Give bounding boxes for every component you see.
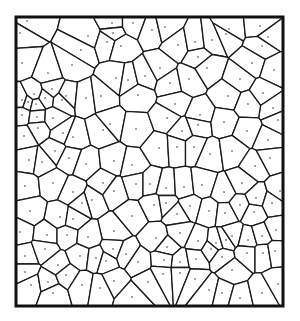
- seed-point: [147, 281, 149, 283]
- seed-point: [176, 146, 178, 148]
- seed-point: [166, 246, 168, 248]
- seed-point: [113, 190, 115, 192]
- seed-point: [262, 92, 264, 94]
- seed-point: [99, 287, 101, 289]
- voronoi-cells: [16, 17, 283, 306]
- seed-point: [195, 258, 197, 260]
- seed-point: [272, 107, 274, 109]
- seed-point: [102, 182, 104, 184]
- seed-point: [37, 127, 39, 129]
- seed-point: [221, 292, 223, 294]
- seed-point: [26, 20, 28, 22]
- seed-point: [181, 130, 183, 132]
- seed-point: [273, 69, 275, 71]
- seed-point: [113, 160, 115, 162]
- seed-point: [206, 67, 208, 69]
- seed-point: [274, 250, 276, 252]
- seed-point: [137, 94, 139, 96]
- seed-point: [52, 292, 54, 294]
- seed-point: [41, 161, 43, 163]
- seed-point: [54, 150, 56, 152]
- seed-point: [28, 159, 30, 161]
- seed-point: [262, 252, 264, 254]
- seed-point: [106, 41, 108, 43]
- seed-point: [194, 278, 196, 280]
- seed-point: [194, 41, 196, 43]
- seed-point: [164, 26, 166, 28]
- seed-point: [159, 67, 161, 69]
- seed-point: [169, 82, 171, 84]
- seed-point: [131, 164, 133, 166]
- seed-point: [155, 237, 157, 239]
- seed-point: [125, 253, 127, 255]
- seed-point: [179, 261, 181, 263]
- seed-point: [47, 281, 49, 283]
- seed-point: [59, 216, 61, 218]
- seed-point: [109, 123, 111, 125]
- seed-point: [165, 202, 167, 204]
- seed-point: [81, 202, 83, 204]
- seed-point: [189, 205, 191, 207]
- seed-point: [188, 78, 190, 80]
- seed-point: [215, 242, 217, 244]
- seed-point: [44, 248, 46, 250]
- seed-point: [247, 239, 249, 241]
- seed-point: [29, 210, 31, 212]
- seed-point: [254, 165, 256, 167]
- seed-point: [137, 261, 139, 263]
- seed-point: [199, 114, 201, 116]
- seed-point: [80, 49, 82, 51]
- seed-point: [231, 150, 233, 152]
- seed-point: [246, 130, 248, 132]
- seed-point: [23, 135, 25, 137]
- seed-point: [105, 260, 107, 262]
- seed-point: [85, 97, 87, 99]
- seed-point: [246, 252, 248, 254]
- seed-point: [135, 128, 137, 130]
- seed-point: [201, 184, 203, 186]
- seed-point: [24, 185, 26, 187]
- seed-point: [79, 255, 81, 257]
- seed-point: [57, 264, 59, 266]
- seed-point: [174, 103, 176, 105]
- seed-point: [208, 289, 210, 291]
- seed-point: [224, 212, 226, 214]
- seed-point: [21, 114, 23, 116]
- seed-point: [153, 204, 155, 206]
- seed-point: [151, 29, 153, 31]
- seed-point: [21, 99, 23, 101]
- seed-point: [261, 292, 263, 294]
- seed-point: [132, 22, 134, 24]
- seed-point: [223, 121, 225, 123]
- seed-point: [95, 257, 97, 259]
- seed-point: [87, 35, 89, 37]
- seed-point: [253, 211, 255, 213]
- seed-point: [61, 99, 63, 101]
- voronoi-diagram: [0, 0, 300, 321]
- seed-point: [267, 139, 269, 141]
- seed-point: [68, 157, 70, 159]
- seed-point: [228, 28, 230, 30]
- seed-point: [221, 256, 223, 258]
- seed-point: [209, 153, 211, 155]
- seed-point: [21, 62, 23, 64]
- seed-point: [177, 44, 179, 46]
- seed-point: [112, 32, 114, 34]
- seed-point: [162, 273, 164, 275]
- seed-point: [19, 231, 21, 233]
- seed-point: [271, 202, 273, 204]
- seed-point: [71, 64, 73, 66]
- seed-point: [239, 78, 241, 80]
- seed-point: [223, 191, 225, 193]
- seed-point: [259, 25, 261, 27]
- seed-point: [113, 280, 115, 282]
- seed-point: [251, 62, 253, 64]
- seed-point: [65, 274, 67, 276]
- seed-point: [208, 210, 210, 212]
- seed-point: [102, 129, 104, 131]
- seed-point: [247, 103, 249, 105]
- seed-point: [44, 97, 46, 99]
- seed-point: [179, 272, 181, 274]
- seed-point: [225, 239, 227, 241]
- seed-point: [239, 204, 241, 206]
